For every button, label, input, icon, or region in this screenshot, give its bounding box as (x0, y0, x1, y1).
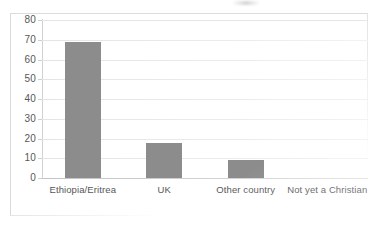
y-axis-tick-mark (38, 139, 42, 140)
y-axis-tick-label: 20 (10, 134, 36, 144)
bar (228, 160, 264, 178)
y-axis-tick-labels: 80706050403020100 (8, 0, 36, 227)
plot-area (42, 20, 368, 178)
y-axis-tick-label: 0 (10, 173, 36, 183)
x-axis-tick-label: Other country (205, 184, 287, 195)
gridline (42, 20, 368, 21)
y-axis-tick-label: 70 (10, 35, 36, 45)
cropped-title-remnant (232, 1, 260, 5)
y-axis-tick-mark (38, 178, 42, 179)
y-axis-tick-mark (38, 158, 42, 159)
bar (65, 42, 101, 178)
bar (146, 143, 182, 178)
y-axis-tick-mark (38, 79, 42, 80)
y-axis-tick-label: 30 (10, 114, 36, 124)
y-axis-tick-label: 60 (10, 55, 36, 65)
bar-chart-figure: 80706050403020100 Ethiopia/EritreaUKOthe… (0, 0, 385, 227)
x-axis-tick-label: Not yet a Christian (287, 184, 369, 195)
y-axis-tick-mark (38, 99, 42, 100)
y-axis-tick-mark (38, 60, 42, 61)
gridline (42, 40, 368, 41)
y-axis-tick-label: 50 (10, 74, 36, 84)
y-axis-tick-label: 10 (10, 153, 36, 163)
x-axis-tick-label: UK (124, 184, 206, 195)
x-axis-tick-label: Ethiopia/Eritrea (42, 184, 124, 195)
y-axis-tick-mark (38, 40, 42, 41)
y-axis-tick-label: 80 (10, 15, 36, 25)
y-axis-tick-label: 40 (10, 94, 36, 104)
y-axis-tick-mark (38, 119, 42, 120)
y-axis-tick-mark (38, 20, 42, 21)
x-axis-line (42, 178, 368, 179)
